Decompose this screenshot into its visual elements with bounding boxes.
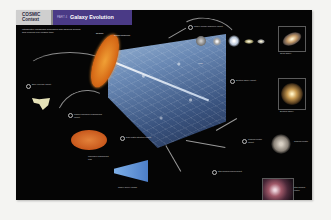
magazine-page: COSMIC Context PART 4 Galaxy Evolution I… <box>16 10 312 200</box>
leader-line <box>166 145 182 171</box>
globular-cluster-image <box>271 134 291 154</box>
callout-marker <box>242 139 247 144</box>
part-label: PART 4 <box>57 15 67 19</box>
cone-label: Cosmic background <box>114 34 130 36</box>
callout-marker <box>68 113 73 118</box>
merger-galaxy-1 <box>196 36 206 46</box>
callout-marker <box>26 84 31 89</box>
elliptical-galaxy-image <box>281 83 303 105</box>
elliptical-galaxy-panel <box>278 78 306 110</box>
callout-marker <box>120 136 125 141</box>
intro-paragraph: Introductory paragraph describing how ga… <box>22 28 82 34</box>
callout-text: Galaxy merger sequence callout <box>194 25 264 28</box>
callout-text: Early universe callout <box>32 83 68 86</box>
merger-galaxy-5 <box>257 39 265 44</box>
merger-galaxy-4 <box>244 39 254 44</box>
callout-marker <box>230 79 235 84</box>
callout-text: Dark matter structure callout <box>126 136 156 139</box>
nebula-panel <box>262 178 294 200</box>
title-bar: PART 4 Galaxy Evolution <box>53 10 132 25</box>
callout-marker <box>188 25 193 30</box>
page-title: Galaxy Evolution <box>70 14 114 20</box>
leader-line <box>186 140 225 148</box>
panel-caption: Elliptical galaxy <box>280 110 304 113</box>
panel-caption: Microwave background map <box>88 155 110 160</box>
callout-text: Elliptical galaxy callout <box>236 79 266 82</box>
survey-wedge-image <box>114 160 148 182</box>
cone-label: Big Bang <box>96 32 103 34</box>
callout-marker <box>212 170 217 175</box>
cosmic-web-texture <box>108 28 226 148</box>
callout-text: Globular cluster callout <box>248 138 268 143</box>
merger-galaxy-3 <box>228 35 240 47</box>
cmb-map-image <box>71 130 107 150</box>
panel-caption: Star-forming region <box>294 186 310 191</box>
panel-caption: Globular cluster <box>294 140 310 143</box>
spiral-galaxy-image <box>280 29 303 48</box>
section-tab-line2: Context <box>22 17 51 22</box>
early-structure-image <box>32 98 50 110</box>
section-tab: COSMIC Context <box>16 10 53 25</box>
cone-label: Today <box>198 62 203 64</box>
spiral-galaxy-panel <box>278 26 306 52</box>
callout-text: Star-forming nebula callout <box>218 170 248 173</box>
callout-text: Cosmic microwave background callout <box>74 113 108 118</box>
merger-galaxy-2 <box>212 37 222 46</box>
panel-caption: Galaxy survey wedge <box>118 186 148 189</box>
page-header: COSMIC Context PART 4 Galaxy Evolution <box>16 10 312 25</box>
panel-caption: Spiral galaxy <box>280 52 304 55</box>
